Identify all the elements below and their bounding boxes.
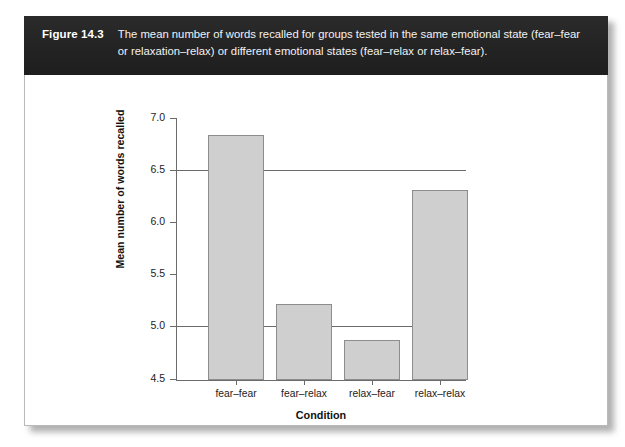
figure-plot-panel: 7.0 6.5 6.0 5.5 5.0 4.5 Mean number of w… bbox=[24, 75, 608, 426]
y-tick-label-5-5: 5.5 bbox=[150, 267, 165, 279]
x-axis-title: Condition bbox=[176, 409, 466, 421]
y-axis-title: Mean number of words recalled bbox=[114, 89, 126, 289]
y-tick-label-5-0: 5.0 bbox=[150, 319, 165, 331]
bar-relax-relax bbox=[412, 190, 468, 380]
y-tick-5-0: 5.0 bbox=[170, 326, 176, 327]
x-tick-fear-fear bbox=[236, 380, 237, 385]
figure-container: Figure 14.3 The mean number of words rec… bbox=[24, 16, 608, 426]
y-tick-label-4-5: 4.5 bbox=[150, 372, 165, 384]
y-tick-label-6-0: 6.0 bbox=[150, 215, 165, 227]
x-tick-relax-relax bbox=[440, 380, 441, 385]
x-tick-label-relax-fear: relax–fear bbox=[349, 388, 395, 399]
y-tick-4-5: 4.5 bbox=[170, 379, 176, 380]
x-tick-fear-relax bbox=[304, 380, 305, 385]
y-tick-6-0: 6.0 bbox=[170, 222, 176, 223]
y-tick-label-6-5: 6.5 bbox=[150, 163, 165, 175]
y-tick-6-5: 6.5 bbox=[170, 170, 176, 171]
bar-relax-fear bbox=[344, 340, 400, 380]
x-tick-label-relax-relax: relax–relax bbox=[415, 388, 465, 399]
figure-number-label: Figure 14.3 bbox=[42, 26, 104, 43]
y-tick-5-5: 5.5 bbox=[170, 274, 176, 275]
y-tick-7-0: 7.0 bbox=[170, 118, 176, 119]
figure-caption-band: Figure 14.3 The mean number of words rec… bbox=[24, 16, 608, 75]
x-tick-relax-fear bbox=[372, 380, 373, 385]
figure-caption-text: The mean number of words recalled for gr… bbox=[118, 26, 590, 59]
x-tick-label-fear-relax: fear–relax bbox=[281, 388, 327, 399]
bar-chart: 7.0 6.5 6.0 5.5 5.0 4.5 Mean number of w… bbox=[25, 75, 609, 426]
y-tick-label-7-0: 7.0 bbox=[150, 111, 165, 123]
bar-fear-relax bbox=[276, 304, 332, 380]
bar-fear-fear bbox=[208, 135, 264, 380]
x-tick-label-fear-fear: fear–fear bbox=[215, 388, 256, 399]
y-axis-line bbox=[176, 118, 177, 381]
